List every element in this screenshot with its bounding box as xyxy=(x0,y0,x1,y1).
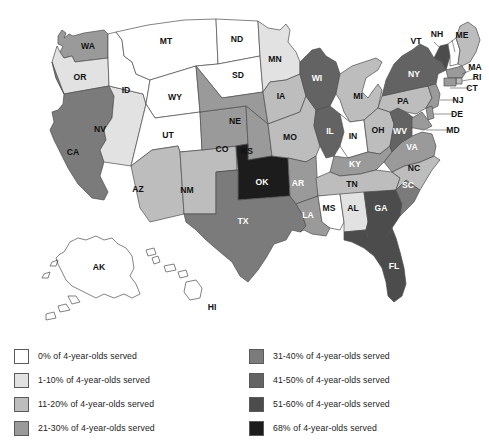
state-label-MA: MA xyxy=(468,62,481,72)
legend-swatch-1 xyxy=(14,373,29,388)
legend-item-5: 41-50% of 4-year-olds served xyxy=(249,368,390,392)
legend-swatch-0 xyxy=(14,349,29,364)
legend-column-left: 0% of 4-year-olds served 1-10% of 4-year… xyxy=(14,344,155,440)
state-label-HI: HI xyxy=(208,302,217,312)
us-choropleth-map: WA OR CA NV ID MT WY UT AZ NM CO ND SD N… xyxy=(0,0,489,340)
legend-swatch-6 xyxy=(249,397,264,412)
state-CT[interactable] xyxy=(444,78,456,86)
legend-item-2: 11-20% of 4-year-olds served xyxy=(14,392,155,416)
state-ME[interactable] xyxy=(456,22,480,66)
legend-label-7: 68% of 4-year-olds served xyxy=(273,423,377,433)
state-MA[interactable] xyxy=(446,66,466,78)
map-legend: 0% of 4-year-olds served 1-10% of 4-year… xyxy=(0,344,489,445)
legend-item-3: 21-30% of 4-year-olds served xyxy=(14,416,155,440)
state-AK[interactable] xyxy=(42,236,156,320)
legend-swatch-3 xyxy=(14,421,29,436)
legend-item-7: 68% of 4-year-olds served xyxy=(249,416,390,440)
state-GA[interactable] xyxy=(364,190,402,238)
legend-swatch-2 xyxy=(14,397,29,412)
state-label-NH: NH xyxy=(431,29,443,39)
legend-label-0: 0% of 4-year-olds served xyxy=(38,351,137,361)
legend-label-1: 1-10% of 4-year-olds served xyxy=(38,375,150,385)
legend-label-2: 11-20% of 4-year-olds served xyxy=(38,399,154,409)
legend-swatch-5 xyxy=(249,373,264,388)
legend-column-right: 31-40% of 4-year-olds served 41-50% of 4… xyxy=(249,344,390,440)
legend-swatch-7 xyxy=(249,421,264,436)
state-CO[interactable] xyxy=(200,106,248,150)
legend-item-4: 31-40% of 4-year-olds served xyxy=(249,344,390,368)
state-AR[interactable] xyxy=(288,156,318,204)
legend-swatch-4 xyxy=(249,349,264,364)
legend-label-6: 51-60% of 4-year-olds served xyxy=(273,399,390,409)
legend-item-0: 0% of 4-year-olds served xyxy=(14,344,155,368)
legend-label-4: 31-40% of 4-year-olds served xyxy=(273,351,390,361)
legend-label-5: 41-50% of 4-year-olds served xyxy=(273,375,390,385)
state-FL[interactable] xyxy=(344,228,406,302)
state-RI[interactable] xyxy=(456,78,462,84)
states-layer xyxy=(42,19,480,320)
state-AL[interactable] xyxy=(340,192,368,232)
state-label-RI: RI xyxy=(473,72,482,82)
state-HI[interactable] xyxy=(152,256,202,300)
legend-item-6: 51-60% of 4-year-olds served xyxy=(249,392,390,416)
leader-RI xyxy=(462,78,478,81)
state-WA[interactable] xyxy=(58,30,108,62)
legend-item-1: 1-10% of 4-year-olds served xyxy=(14,368,155,392)
legend-label-3: 21-30% of 4-year-olds served xyxy=(38,423,155,433)
